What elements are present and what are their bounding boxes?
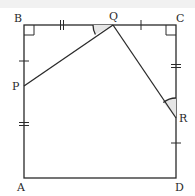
square-abcd [24, 25, 176, 178]
label-r: R [179, 112, 188, 125]
label-c: C [176, 12, 184, 25]
segment-qr [113, 25, 176, 118]
right-angle-b-icon [24, 25, 34, 35]
label-p: P [12, 80, 20, 93]
label-b: B [14, 12, 22, 25]
label-q: Q [109, 10, 118, 23]
segment-pq [24, 25, 113, 86]
geometry-diagram: B Q C P R A D [0, 0, 195, 196]
right-angle-c-icon [166, 25, 176, 35]
label-d: D [175, 181, 184, 194]
label-a: A [16, 181, 26, 194]
